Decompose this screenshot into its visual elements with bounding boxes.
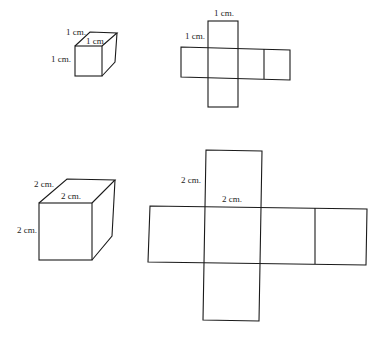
small-net-side-label: 1 cm.: [185, 31, 205, 41]
large-cube-depth-label: 2 cm.: [34, 179, 54, 189]
large-cube-top-label: 2 cm.: [61, 191, 81, 201]
large-cube-front-face: [39, 203, 92, 260]
large-cube: 2 cm. 2 cm. 2 cm.: [17, 179, 115, 260]
small-net-top-label: 1 cm.: [214, 8, 234, 18]
small-cube-depth-label: 1 cm.: [66, 27, 86, 37]
small-cube-top-label: 1 cm.: [86, 36, 106, 46]
small-cube-front-face: [75, 46, 102, 76]
large-cube-net: 2 cm. 2 cm.: [148, 150, 367, 321]
small-cube: 1 cm. 1 cm. 1 cm.: [51, 27, 117, 76]
large-net-side-label: 2 cm.: [181, 175, 201, 185]
large-net-top-label: 2 cm.: [222, 194, 242, 204]
small-net-horizontal-strip: [181, 47, 290, 80]
small-cube-height-label: 1 cm.: [51, 54, 71, 64]
small-cube-net: 1 cm. 1 cm.: [181, 8, 290, 107]
large-net-vertical-strip: [203, 150, 262, 321]
large-net-horizontal-strip: [148, 206, 367, 265]
large-cube-height-label: 2 cm.: [17, 225, 37, 235]
small-net-vertical-strip: [208, 21, 238, 107]
cube-nets-diagram: 1 cm. 1 cm. 1 cm. 1 cm. 1 cm. 2 cm. 2 cm…: [0, 0, 387, 342]
